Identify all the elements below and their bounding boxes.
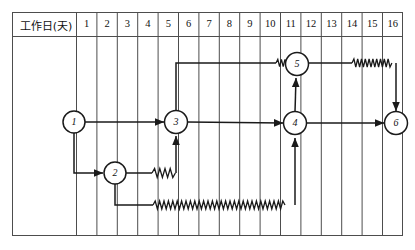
day-tick-3: 3: [117, 18, 137, 29]
day-tick-15: 15: [362, 18, 382, 29]
axis-header-label: 工作日(天): [18, 17, 74, 33]
day-tick-6: 6: [179, 18, 199, 29]
network-diagram-chart: 工作日(天) 1 2 3 4 5 6 7 8 9 10 11 12 13 14 …: [0, 0, 415, 250]
node-4-circle[interactable]: [284, 112, 307, 135]
node-3-circle[interactable]: [165, 111, 188, 134]
day-tick-2: 2: [97, 18, 117, 29]
diagram-canvas: [0, 0, 415, 250]
day-tick-11: 11: [281, 18, 301, 29]
day-tick-7: 7: [199, 18, 219, 29]
day-tick-4: 4: [138, 18, 158, 29]
day-tick-14: 14: [342, 18, 362, 29]
day-tick-5: 5: [158, 18, 178, 29]
node-2-circle[interactable]: [104, 162, 126, 184]
day-tick-16: 16: [383, 18, 403, 29]
node-5-circle[interactable]: [286, 53, 309, 76]
edge-3-4: [187, 122, 283, 123]
node-1-circle[interactable]: [63, 111, 85, 133]
day-tick-12: 12: [301, 18, 321, 29]
day-tick-8: 8: [219, 18, 239, 29]
node-6-circle[interactable]: [385, 112, 408, 135]
day-tick-13: 13: [321, 18, 341, 29]
day-tick-9: 9: [240, 18, 260, 29]
edge-4-5: [295, 78, 296, 112]
day-tick-10: 10: [260, 18, 280, 29]
day-tick-1: 1: [77, 18, 97, 29]
